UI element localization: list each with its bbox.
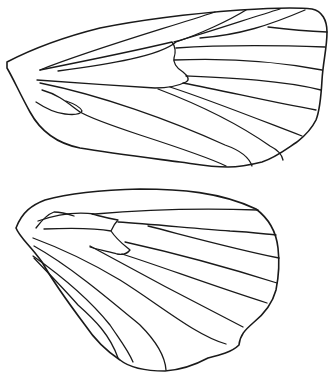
hindwing-discal-cell xyxy=(44,214,130,254)
forewing-m3 xyxy=(183,83,316,110)
hindwing-cu2 xyxy=(33,238,226,344)
forewing-r3 xyxy=(200,10,305,38)
hindwing-cu3 xyxy=(34,246,166,370)
forewing-r4 xyxy=(268,27,327,32)
forewing-m1 xyxy=(174,59,322,70)
wing-drawing xyxy=(0,0,336,381)
forewing xyxy=(7,8,327,167)
forewing-subcosta xyxy=(40,12,215,70)
hindwing-cu1 xyxy=(90,246,243,327)
hindwing xyxy=(16,189,279,371)
hindwing-m1 xyxy=(148,226,279,258)
forewing-r5 xyxy=(176,46,325,48)
wing-venation-figure: Wing venation: forewing (top) and hindwi… xyxy=(0,0,336,381)
forewing-cu3 xyxy=(40,83,252,166)
hindwing-rs xyxy=(118,222,276,235)
forewing-anal-1 xyxy=(42,90,226,166)
